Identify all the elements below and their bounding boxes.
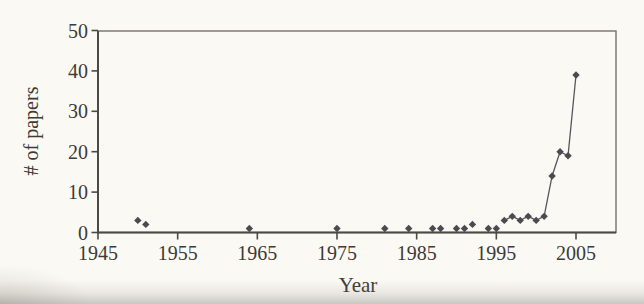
data-point-marker [493,225,500,232]
data-point-marker [134,217,141,224]
data-point-marker [461,225,468,232]
x-axis-label: Year [339,273,378,297]
data-point-marker [501,217,508,224]
data-point-marker [246,225,253,232]
x-tick-label: 1975 [317,242,357,264]
data-point-marker [333,225,340,232]
data-point-marker [405,225,412,232]
data-point-marker [381,225,388,232]
y-tick-label: 50 [68,20,88,42]
x-tick-label: 1985 [397,242,437,264]
data-point-marker [540,213,547,220]
y-axis-label: # of papers [20,86,43,175]
plot-frame [98,31,616,233]
data-point-marker [142,221,149,228]
data-point-marker [532,217,539,224]
data-point-marker [453,225,460,232]
data-point-marker [548,172,555,179]
data-point-marker [437,225,444,232]
data-point-marker [485,225,492,232]
data-point-marker [564,152,571,159]
y-tick-label: 10 [68,181,88,203]
figure-root: 194519551965197519851995200501020304050 … [0,0,644,304]
data-point-marker [509,213,516,220]
data-point-marker [525,213,532,220]
data-point-marker [572,71,579,78]
y-tick-label: 20 [68,141,88,163]
axes [98,31,616,233]
y-tick-label: 30 [68,100,88,122]
data-point-marker [429,225,436,232]
y-tick-label: 0 [78,222,88,244]
x-tick-label: 1995 [476,242,516,264]
data-point-marker [469,221,476,228]
data-point-marker [556,148,563,155]
data-point-marker [517,217,524,224]
y-tick-label: 40 [68,60,88,82]
x-tick-label: 2005 [556,242,596,264]
scatter-plot-svg: 194519551965197519851995200501020304050 … [0,0,644,304]
x-tick-label: 1965 [237,242,277,264]
trend-line [504,75,576,220]
x-tick-label: 1945 [78,242,118,264]
x-tick-label: 1955 [158,242,198,264]
